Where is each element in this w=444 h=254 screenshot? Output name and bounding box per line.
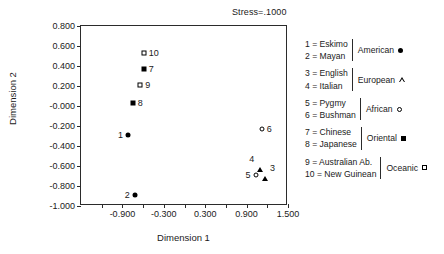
data-point-label: 10 (149, 49, 159, 58)
open-circle-marker-icon (397, 107, 402, 112)
y-tick (77, 26, 81, 27)
x-tick-label: -0.900 (110, 209, 136, 219)
x-tick (205, 204, 206, 208)
y-tick (77, 126, 81, 127)
legend-key: 2 = Mayan (305, 50, 348, 62)
legend-key: 6 = Bushman (305, 109, 356, 121)
open-square-marker-icon (422, 165, 427, 170)
filled-circle-marker-icon (398, 48, 403, 53)
legend-key: 9 = Australian Ab. (305, 156, 376, 168)
data-point: 1 (125, 133, 130, 138)
data-point-label: 9 (145, 81, 150, 90)
y-tick-label: -0.800 (49, 181, 75, 191)
legend-group-name: Oriental (367, 133, 397, 143)
legend-key: 5 = Pygmy (305, 97, 356, 109)
legend-keys: 9 = Australian Ab.10 = New Guinean (305, 156, 376, 180)
y-tick (77, 186, 81, 187)
x-tick-minor (226, 204, 227, 208)
legend-group-african[interactable]: 5 = Pygmy6 = BushmanAfrican (305, 97, 441, 121)
legend-group-name: American (358, 45, 394, 55)
x-tick (122, 204, 123, 208)
data-point: 4 (257, 150, 263, 168)
data-point: 7 (141, 67, 146, 72)
legend-group-entry: European (358, 75, 405, 85)
open-triangle-marker-icon (399, 77, 405, 82)
legend-keys: 3 = English4 = Italian (305, 67, 348, 91)
data-point: 5 (253, 173, 258, 178)
x-tick (247, 204, 248, 208)
legend-keys: 1 = Eskimo2 = Mayan (305, 38, 348, 62)
open-square-marker-icon (141, 51, 146, 56)
legend-key: 8 = Japanese (305, 138, 357, 150)
open-circle-marker-icon (253, 173, 258, 178)
legend-keys: 7 = Chinese8 = Japanese (305, 126, 357, 150)
legend-key: 10 = New Guinean (305, 168, 376, 180)
filled-square-marker-icon (401, 136, 406, 141)
data-point-label: 2 (125, 191, 130, 200)
open-triangle-marker-icon (257, 150, 263, 172)
legend-group-american[interactable]: 1 = Eskimo2 = MayanAmerican (305, 38, 441, 62)
data-point: 10 (141, 51, 146, 56)
legend-brace (352, 39, 353, 61)
legend: 1 = Eskimo2 = MayanAmerican3 = English4 … (305, 38, 441, 185)
data-point-label: 3 (270, 164, 275, 173)
y-tick-label: -0.400 (49, 141, 75, 151)
legend-group-entry: African (366, 104, 402, 114)
legend-brace (380, 157, 381, 179)
data-point-label: 7 (149, 65, 154, 74)
legend-group-entry: Oriental (367, 133, 406, 143)
legend-group-european[interactable]: 3 = English4 = ItalianEuropean (305, 67, 441, 91)
y-tick-label: 0.800 (52, 21, 75, 31)
legend-group-oceanic[interactable]: 9 = Australian Ab.10 = New GuineanOceani… (305, 156, 441, 180)
y-tick-label: 0.600 (52, 41, 75, 51)
y-tick (77, 146, 81, 147)
legend-group-name: African (366, 104, 393, 114)
legend-group-entry: American (358, 45, 403, 55)
legend-key: 1 = Eskimo (305, 38, 348, 50)
y-tick (77, 106, 81, 107)
mds-scatter-figure: Stress=.1000 0.8000.6000.4000.200-0.000-… (0, 0, 444, 254)
data-point-label: 5 (246, 171, 251, 180)
y-tick-label: 0.400 (52, 61, 75, 71)
legend-group-oriental[interactable]: 7 = Chinese8 = JapaneseOriental (305, 126, 441, 150)
filled-square-marker-icon (141, 67, 146, 72)
legend-key: 3 = English (305, 67, 348, 79)
legend-brace (360, 98, 361, 120)
y-tick (77, 166, 81, 167)
x-tick (288, 204, 289, 208)
legend-group-entry: Oceanic (386, 163, 427, 173)
x-tick (164, 204, 165, 208)
data-point: 9 (138, 83, 143, 88)
y-tick-label: -0.200 (49, 121, 75, 131)
data-point: 8 (130, 101, 135, 106)
legend-group-name: Oceanic (386, 163, 418, 173)
filled-circle-marker-icon (132, 193, 137, 198)
y-tick (77, 66, 81, 67)
x-tick-minor (185, 204, 186, 208)
legend-keys: 5 = Pygmy6 = Bushman (305, 97, 356, 121)
y-tick-label: -0.600 (49, 161, 75, 171)
open-square-marker-icon (138, 83, 143, 88)
x-axis-title: Dimension 1 (80, 232, 287, 243)
filled-circle-marker-icon (125, 133, 130, 138)
legend-brace (352, 68, 353, 90)
data-point-label: 4 (249, 155, 254, 164)
data-point-label: 1 (118, 131, 123, 140)
plot-area: 0.8000.6000.4000.200-0.000-0.200-0.400-0… (80, 25, 287, 205)
y-tick-label: -1.000 (49, 201, 75, 211)
y-tick (77, 206, 81, 207)
x-tick-label: -0.300 (151, 209, 177, 219)
legend-group-name: European (358, 75, 395, 85)
open-circle-marker-icon (259, 127, 264, 132)
data-point: 2 (132, 193, 137, 198)
y-tick (77, 86, 81, 87)
x-tick-minor (267, 204, 268, 208)
legend-key: 7 = Chinese (305, 126, 357, 138)
x-tick-label: 1.500 (277, 209, 300, 219)
stress-annotation: Stress=.1000 (232, 7, 286, 17)
y-axis-title: Dimension 2 (7, 49, 18, 149)
x-tick-label: 0.300 (194, 209, 217, 219)
y-tick-label: 0.200 (52, 81, 75, 91)
data-point: 6 (259, 127, 264, 132)
filled-square-marker-icon (130, 101, 135, 106)
